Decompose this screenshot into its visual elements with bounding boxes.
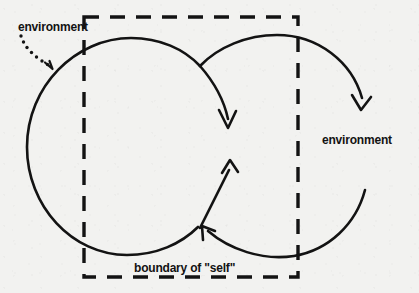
inner-return-arrowhead-icon (222, 160, 238, 173)
left-loop-arc (27, 38, 200, 255)
label-boundary-of-self: boundary of "self" (131, 261, 238, 275)
label-environment-left: environment (18, 20, 88, 34)
label-environment-right: environment (322, 133, 392, 147)
environment-pointer-dots (19, 34, 49, 66)
right-loop-return-arc (208, 190, 365, 257)
diagram-figure: environment environment boundary of "sel… (0, 0, 419, 293)
inner-return-curve (200, 170, 229, 228)
boundary-of-self-rect (84, 17, 298, 277)
right-loop-arc (200, 35, 362, 98)
left-loop-inflow (200, 66, 228, 119)
